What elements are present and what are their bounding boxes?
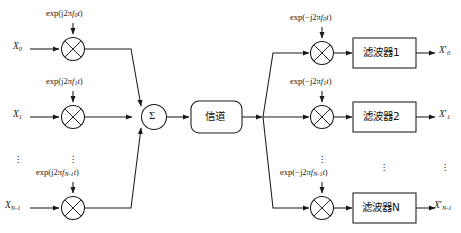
tx-input-label-0: X0 [13, 42, 22, 52]
rx-output-ellipsis: ... [441, 160, 449, 170]
rx-output-label-0: X′0 [439, 46, 450, 56]
block-diagram-figure: exp(j2πf0t) exp(j2πf1t) exp(j2πfN-1t) X0… [0, 0, 461, 233]
tx-input-ellipsis: ... [14, 152, 22, 162]
wire-tx-mixer-n1-to-sum [85, 128, 142, 208]
rx-output-label-1: X′1 [439, 110, 450, 120]
wire-split-to-rx-mixer-n1 [263, 117, 309, 208]
tx-mixer-ellipsis: ... [69, 152, 77, 162]
filter-ellipsis: ... [380, 160, 388, 170]
tx-carrier-label-n-1: exp(j2πfN-1t) [36, 168, 79, 178]
tx-carrier-label-1: exp(j2πf1t) [46, 77, 83, 87]
filter-label-n: 滤波器N [362, 202, 400, 213]
filter-label-2: 滤波器2 [363, 111, 400, 122]
tx-carrier-label-0: exp(j2πf0t) [46, 9, 83, 19]
rx-carrier-label-1: exp(−j2πf1t) [290, 77, 332, 87]
rx-output-label-n-1: X′N-1 [434, 201, 451, 211]
tx-input-label-1: X1 [13, 110, 22, 120]
rx-mixer-ellipsis: ... [318, 152, 326, 162]
tx-input-label-n-1: XN-1 [5, 201, 20, 211]
channel-label: 信道 [205, 111, 225, 122]
rx-carrier-label-0: exp(−j2πf0t) [290, 13, 332, 23]
filter-label-1: 滤波器1 [363, 47, 400, 58]
summation-symbol: Σ [149, 110, 155, 121]
rx-carrier-label-n-1: exp(−j2πfN-1t) [280, 168, 328, 178]
wire-tx-mixer-0-to-sum [85, 49, 142, 106]
